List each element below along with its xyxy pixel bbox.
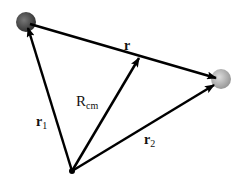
vector-r1 — [28, 28, 72, 171]
vector-r — [30, 24, 216, 78]
label-r2: r2 — [144, 132, 155, 149]
vector-r2 — [72, 85, 214, 171]
label-rcm: Rcm — [76, 93, 98, 111]
label-r1: r1 — [36, 114, 47, 131]
two-body-diagram: r r1 r2 Rcm — [0, 0, 250, 179]
origin-point — [69, 168, 75, 174]
particle-1 — [16, 12, 36, 32]
label-r: r — [124, 38, 130, 53]
vector-rcm — [72, 58, 139, 171]
